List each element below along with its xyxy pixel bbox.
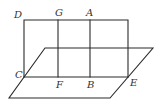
label-f: F <box>56 80 63 90</box>
horizontal-plane <box>9 48 153 98</box>
label-g: G <box>55 8 63 18</box>
label-b: B <box>87 80 94 90</box>
label-d: D <box>14 10 22 20</box>
label-c: C <box>15 70 23 80</box>
label-a: A <box>86 8 93 18</box>
label-e: E <box>130 78 137 88</box>
geometry-diagram <box>0 0 164 112</box>
